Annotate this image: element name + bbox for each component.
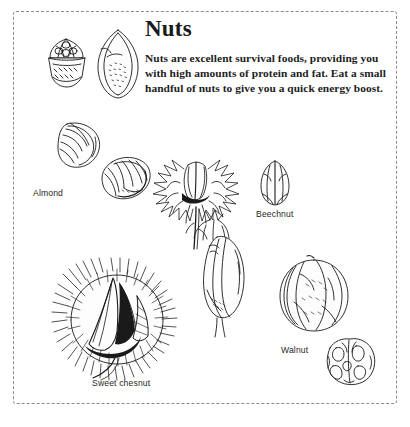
walnut-kernel-drawing bbox=[320, 336, 378, 388]
body-paragraph: Nuts are excellent survival foods, provi… bbox=[145, 51, 390, 97]
walnut-shell-drawing bbox=[276, 254, 352, 336]
page-title: Nuts bbox=[145, 16, 390, 42]
text-block: Nuts Nuts are excellent survival foods, … bbox=[145, 16, 390, 97]
beechnut-drawing bbox=[258, 158, 292, 208]
label-beechnut: Beechnut bbox=[256, 209, 294, 219]
almond-whole-drawing bbox=[93, 27, 143, 101]
page-canvas: Nuts Nuts are excellent survival foods, … bbox=[0, 0, 410, 427]
label-almond: Almond bbox=[33, 188, 63, 198]
sweet-chestnut-burr-drawing bbox=[55, 258, 180, 380]
acorn-in-cup-drawing bbox=[44, 33, 90, 89]
label-walnut: Walnut bbox=[281, 345, 308, 355]
almond-shell-drawing bbox=[55, 118, 103, 170]
chestnut-kernel-drawing bbox=[197, 232, 251, 338]
almond-split-drawing bbox=[98, 152, 154, 202]
